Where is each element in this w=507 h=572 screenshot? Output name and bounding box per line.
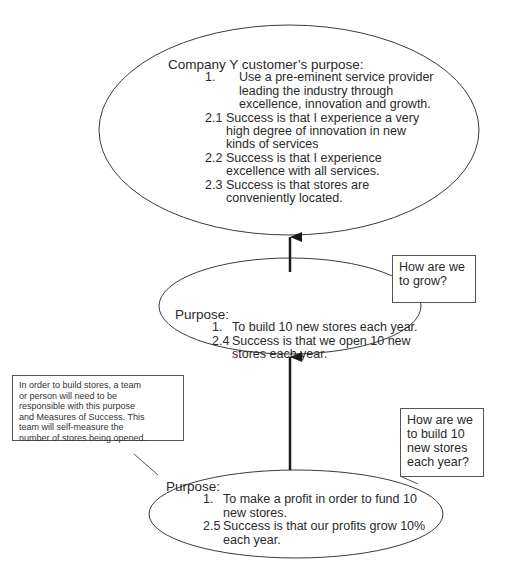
item-line: Use a pre-eminent service provider (239, 71, 434, 84)
item-line: each year. (223, 534, 425, 547)
item-number: 2.2 (205, 152, 235, 165)
bottom-node-item-1: 1. To make a profit in order to fund 10 … (203, 493, 425, 520)
item-number: 2.4 (212, 335, 242, 348)
item-number: 2.3 (205, 179, 235, 192)
bottom-node-item-2-5: 2.5 Success is that our profits grow 10%… (203, 520, 425, 547)
item-line: Success is that we open 10 new (232, 335, 418, 348)
item-line: Success is that our profits grow 10% (223, 520, 425, 533)
item-number: 1. (203, 493, 233, 506)
item-line: To build 10 new stores each year. (232, 321, 418, 334)
top-node-text: Company Y customer’s purpose: 1. Use a p… (168, 58, 434, 205)
top-node-title: Company Y customer’s purpose: (168, 58, 434, 71)
item-line: Success is that I experience (226, 152, 434, 165)
top-node-item-2-1: 2.1 Success is that I experience a very … (205, 112, 434, 152)
callout-line: to grow? (399, 274, 469, 288)
note-line: In order to build stores, a team (19, 380, 177, 391)
note-line: number of stores being opened. (19, 433, 177, 444)
item-number: 1. (205, 71, 235, 84)
callout-line: to build 10 (407, 427, 477, 441)
item-number: 2.5 (203, 520, 233, 533)
middle-node-item-1: 1. To build 10 new stores each year. (212, 321, 418, 334)
item-line: conveniently located. (226, 192, 434, 205)
callout-line: How are we (407, 413, 477, 427)
item-line: Success is that I experience a very (226, 112, 434, 125)
note-line: or person will need to be (19, 391, 177, 402)
note-line: responsible with this purpose (19, 401, 177, 412)
middle-node-text: Purpose: 1. To build 10 new stores each … (175, 308, 418, 362)
note-line: team will self-measure the (19, 422, 177, 433)
note-team: In order to build stores, a team or pers… (12, 375, 184, 441)
item-line: stores each year. (232, 348, 418, 361)
item-line: new stores. (223, 507, 425, 520)
callout-line: How are we (399, 260, 469, 274)
callout-line: each year? (407, 455, 477, 469)
bottom-node-text: Purpose: 1. To make a profit in order to… (166, 480, 425, 547)
middle-node-title: Purpose: (175, 308, 418, 321)
item-number: 2.1 (205, 112, 235, 125)
top-node-item-1: 1. Use a pre-eminent service provider le… (205, 71, 434, 111)
top-node-item-2-3: 2.3 Success is that stores are convenien… (205, 179, 434, 206)
item-number: 1. (212, 321, 242, 334)
item-line: leading the industry through (239, 85, 434, 98)
callout-grow: How are we to grow? (392, 255, 476, 303)
item-line: excellence, innovation and growth. (239, 98, 434, 111)
middle-node-item-2-4: 2.4 Success is that we open 10 new store… (212, 335, 418, 362)
item-line: excellence with all services. (226, 165, 434, 178)
item-line: high degree of innovation in new (226, 125, 434, 138)
note-line: and Measures of Success. This (19, 412, 177, 423)
top-node-item-2-2: 2.2 Success is that I experience excelle… (205, 152, 434, 179)
note-team-connector (134, 454, 158, 475)
bottom-node-title: Purpose: (166, 480, 425, 493)
item-line: To make a profit in order to fund 10 (223, 493, 425, 506)
item-line: kinds of services (226, 138, 434, 151)
callout-line: new stores (407, 441, 477, 455)
callout-build: How are we to build 10 new stores each y… (400, 408, 484, 477)
item-line: Success is that stores are (226, 179, 434, 192)
